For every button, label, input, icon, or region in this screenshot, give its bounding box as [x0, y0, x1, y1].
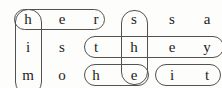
grid-cell-r2c3: e [122, 65, 146, 85]
word-search-puzzle: h e r s s a i s t h e y m o h e i t [0, 0, 222, 88]
grid-cell-r2c5: t [195, 65, 219, 85]
grid-cell-r2c2: h [84, 65, 108, 85]
grid-cell-r0c2: r [84, 9, 108, 29]
grid-cell-r1c2: t [84, 37, 108, 57]
grid-cell-r0c0: h [16, 9, 40, 29]
letter-grid: h e r s s a i s t h e y m o h e i t [0, 0, 222, 88]
grid-cell-r0c4: s [160, 9, 184, 29]
grid-cell-r1c0: i [16, 37, 40, 57]
grid-cell-r1c3: h [122, 37, 146, 57]
grid-cell-r0c1: e [50, 9, 74, 29]
grid-cell-r0c5: a [195, 9, 219, 29]
grid-cell-r1c4: e [160, 37, 184, 57]
grid-cell-r2c1: o [50, 65, 74, 85]
grid-cell-r2c0: m [16, 65, 40, 85]
grid-cell-r2c4: i [160, 65, 184, 85]
grid-cell-r1c5: y [195, 37, 219, 57]
grid-cell-r1c1: s [50, 37, 74, 57]
grid-cell-r0c3: s [122, 9, 146, 29]
